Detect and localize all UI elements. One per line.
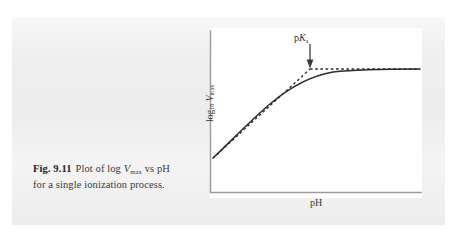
caption-line1-tail: vs (142, 163, 154, 174)
pka-variable: K (299, 32, 306, 43)
chart-canvas (198, 24, 433, 220)
y-axis-label-variable-subscript: max (209, 85, 215, 96)
pka-arrow-head (307, 60, 314, 69)
pka-annotation-label: pKa (294, 32, 308, 44)
caption-line3: process. (130, 179, 165, 190)
chart-figure: pKa log10 Vmax pH (198, 24, 433, 220)
figure-number: Fig. 9.11 (33, 163, 72, 174)
y-axis-label-log: log (205, 110, 215, 122)
x-axis-label: pH (210, 197, 422, 208)
figure-caption: Fig. 9.11Plot of log Vmax vs pH for a si… (33, 162, 178, 191)
y-axis-label-variable: V (205, 95, 215, 101)
pka-subscript: a (306, 38, 309, 44)
y-axis-label: log10 Vmax (205, 60, 216, 146)
caption-variable-vmax-subscript: max (130, 168, 142, 175)
titration-curve (213, 69, 420, 158)
pka-arrow (307, 44, 314, 69)
caption-line1-lead: Plot of log (76, 163, 124, 174)
axis-spines (211, 31, 422, 193)
y-axis-label-base: 10 (209, 104, 215, 110)
